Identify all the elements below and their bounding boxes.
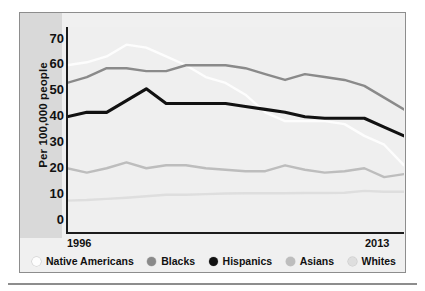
legend-item-blacks[interactable]: Blacks: [147, 256, 195, 267]
x-tick-end: 2013: [365, 237, 389, 249]
legend-item-native-americans[interactable]: Native Americans: [32, 256, 134, 267]
y-tick-0: 0: [38, 213, 64, 226]
circle-marker-icon: [348, 257, 357, 266]
y-tick-20: 20: [38, 161, 64, 174]
x-axis-line: [66, 232, 404, 234]
footer-rule: [8, 283, 417, 285]
legend-label: Whites: [362, 256, 396, 267]
legend-label: Asians: [300, 256, 334, 267]
legend-item-hispanics[interactable]: Hispanics: [209, 256, 273, 267]
series-line-whites: [67, 191, 404, 201]
x-tick-start: 1996: [67, 237, 91, 249]
chart-frame: Per 100,000 people 70 60 50 40 30 20 10 …: [19, 12, 406, 273]
y-tick-60: 60: [38, 57, 64, 70]
legend-item-asians[interactable]: Asians: [286, 256, 334, 267]
chart-legend: Native Americans Blacks Hispanics Asians…: [32, 252, 396, 270]
circle-marker-icon: [209, 257, 218, 266]
legend-label: Native Americans: [46, 256, 134, 267]
series-canvas: [67, 27, 404, 233]
legend-item-whites[interactable]: Whites: [348, 256, 396, 267]
chart-figure: Per 100,000 people 70 60 50 40 30 20 10 …: [0, 0, 425, 291]
y-tick-70: 70: [38, 32, 64, 45]
plot-area: [67, 27, 404, 233]
series-line-blacks: [67, 65, 404, 109]
circle-marker-icon: [286, 257, 295, 266]
y-tick-30: 30: [38, 135, 64, 148]
circle-marker-icon: [147, 257, 156, 266]
y-axis-line: [66, 27, 68, 233]
legend-label: Hispanics: [223, 256, 273, 267]
legend-label: Blacks: [161, 256, 195, 267]
series-line-asians: [67, 162, 404, 177]
y-tick-50: 50: [38, 83, 64, 96]
y-tick-40: 40: [38, 109, 64, 122]
circle-marker-icon: [32, 257, 41, 266]
y-tick-10: 10: [38, 187, 64, 200]
